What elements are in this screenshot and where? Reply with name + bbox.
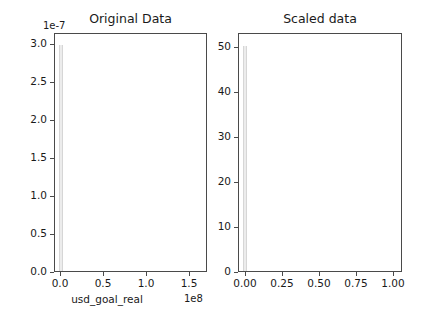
ytick-mark	[234, 47, 238, 48]
xtick-mark	[319, 272, 320, 276]
matplotlib-figure: Original Data 1e-7 0.0 0.5 1.0 1.5 2.0 2…	[0, 0, 425, 330]
density-spike-original	[59, 45, 63, 272]
axes-scaled-data: Scaled data 0 10 20 30 40 50 0.00 0.25 0…	[212, 0, 425, 330]
xtick-mark	[146, 272, 147, 276]
ytick-label: 1.5	[10, 152, 47, 163]
ytick-mark	[50, 234, 54, 235]
xtick-label: 0.50	[298, 278, 340, 289]
xtick-label: 0.5	[85, 278, 121, 289]
ytick-mark	[50, 82, 54, 83]
xtick-label: 0.25	[261, 278, 303, 289]
chart-title-scaled: Scaled data	[238, 12, 402, 26]
ytick-mark	[50, 272, 54, 273]
plot-area-original	[54, 33, 207, 272]
ytick-label: 0	[200, 266, 231, 277]
xtick-mark	[245, 272, 246, 276]
ytick-mark	[50, 120, 54, 121]
ytick-mark	[50, 44, 54, 45]
x-offset-text-original: 1e8	[184, 293, 203, 304]
xtick-mark	[393, 272, 394, 276]
ytick-label: 0.0	[10, 266, 47, 277]
ytick-label: 1.0	[10, 190, 47, 201]
ytick-label: 0.5	[10, 228, 47, 239]
ytick-label: 20	[200, 176, 231, 187]
xtick-mark	[189, 272, 190, 276]
ytick-label: 2.5	[10, 76, 47, 87]
ytick-mark	[234, 227, 238, 228]
ytick-mark	[50, 158, 54, 159]
ytick-label: 3.0	[10, 38, 47, 49]
x-axis-label-original: usd_goal_real	[42, 293, 172, 305]
xtick-label: 0.0	[42, 278, 78, 289]
ytick-mark	[234, 137, 238, 138]
ytick-label: 40	[200, 86, 231, 97]
xtick-mark	[282, 272, 283, 276]
xtick-label: 1.0	[128, 278, 164, 289]
ytick-label: 2.0	[10, 114, 47, 125]
xtick-mark	[356, 272, 357, 276]
ytick-label: 50	[200, 41, 231, 52]
plot-area-scaled	[238, 33, 402, 272]
ytick-mark	[234, 92, 238, 93]
xtick-mark	[60, 272, 61, 276]
xtick-label: 1.5	[171, 278, 207, 289]
y-offset-text-original: 1e-7	[43, 20, 66, 31]
ytick-mark	[234, 272, 238, 273]
ytick-mark	[234, 182, 238, 183]
xtick-label: 1.00	[372, 278, 414, 289]
xtick-mark	[103, 272, 104, 276]
density-spike-scaled	[243, 46, 247, 272]
ytick-mark	[50, 196, 54, 197]
xtick-label: 0.00	[224, 278, 266, 289]
chart-title-original: Original Data	[54, 12, 207, 26]
ytick-label: 10	[200, 221, 231, 232]
ytick-label: 30	[200, 131, 231, 142]
xtick-label: 0.75	[335, 278, 377, 289]
axes-original-data: Original Data 1e-7 0.0 0.5 1.0 1.5 2.0 2…	[0, 0, 213, 330]
